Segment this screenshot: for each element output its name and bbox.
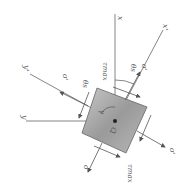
label-y: y bbox=[20, 114, 29, 120]
theta-arc-top bbox=[115, 80, 134, 84]
label-theta-top: θs bbox=[129, 64, 137, 72]
label-tau-top: τmax bbox=[101, 62, 109, 81]
tau-arrow-left bbox=[79, 92, 89, 118]
label-origin: Q bbox=[109, 127, 118, 134]
label-sigma-top: σ' bbox=[140, 64, 148, 71]
label-tau-bottom: τmax bbox=[126, 164, 134, 183]
stress-element-diagram: x x' y y' Q θs θs σ' σ' σ' σ' τmax τmax … bbox=[0, 0, 184, 187]
label-x: x bbox=[116, 16, 125, 21]
label-theta-left: θs bbox=[81, 80, 89, 88]
label-sigma-left: σ' bbox=[61, 74, 69, 81]
label-sigma-bottom: σ' bbox=[82, 165, 90, 172]
sigma-arrow-left bbox=[60, 92, 88, 106]
label-x-prime: x' bbox=[161, 24, 170, 31]
label-y-prime: y' bbox=[22, 64, 31, 72]
origin-point bbox=[113, 119, 117, 123]
label-sigma-right: σ' bbox=[168, 148, 176, 155]
